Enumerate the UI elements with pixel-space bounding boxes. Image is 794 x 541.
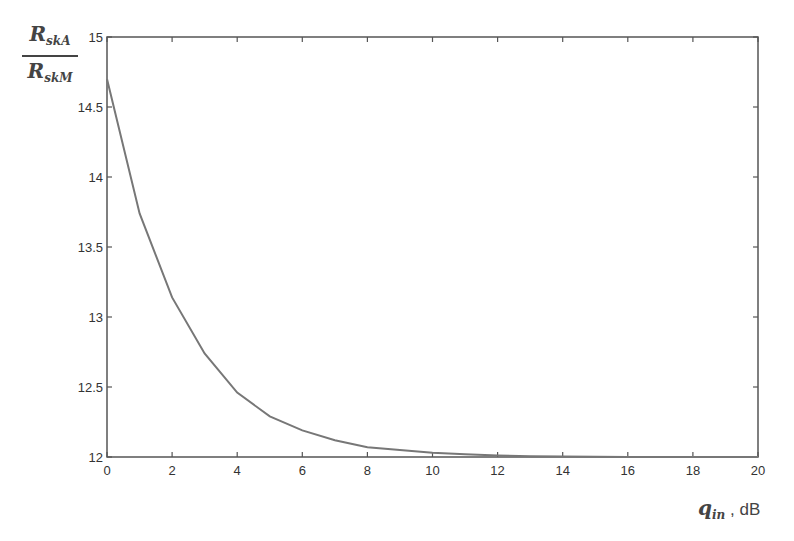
x-tick-label: 10 <box>425 463 439 478</box>
y-tick-label: 14.5 <box>78 100 103 115</box>
y-tick-label: 12 <box>89 450 103 465</box>
axis-ticks <box>107 37 758 457</box>
tick-labels: 024681012141618201212.51313.51414.515 <box>78 30 766 478</box>
x-tick-label: 14 <box>555 463 569 478</box>
y-tick-label: 14 <box>89 170 103 185</box>
x-tick-label: 8 <box>364 463 371 478</box>
x-tick-label: 4 <box>234 463 241 478</box>
y-label-denominator: RskM <box>22 59 78 90</box>
x-tick-label: 6 <box>299 463 306 478</box>
plot-frame <box>107 37 758 457</box>
fraction-bar <box>22 55 78 57</box>
x-axis-label: qin , dB <box>698 496 760 522</box>
y-label-numerator: RskA <box>22 22 78 53</box>
x-tick-label: 12 <box>490 463 504 478</box>
x-tick-label: 18 <box>686 463 700 478</box>
y-tick-label: 12.5 <box>78 380 103 395</box>
chart-canvas: 024681012141618201212.51313.51414.515 <box>0 0 794 541</box>
x-tick-label: 0 <box>103 463 110 478</box>
plot-border <box>107 37 758 457</box>
x-tick-label: 16 <box>621 463 635 478</box>
x-tick-label: 20 <box>751 463 765 478</box>
y-tick-label: 13 <box>89 310 103 325</box>
y-axis-label: RskA RskM <box>22 22 78 90</box>
x-tick-label: 2 <box>168 463 175 478</box>
y-tick-label: 13.5 <box>78 240 103 255</box>
data-curve <box>107 79 758 457</box>
y-tick-label: 15 <box>89 30 103 45</box>
